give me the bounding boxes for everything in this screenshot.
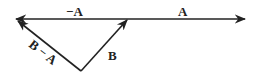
- vector-b-arrow: [81, 20, 127, 71]
- label-a: A: [178, 4, 188, 19]
- label-b: B: [108, 48, 117, 63]
- label-neg-a: −A: [66, 4, 83, 19]
- vector-diagram: −A A B B − A: [0, 0, 253, 77]
